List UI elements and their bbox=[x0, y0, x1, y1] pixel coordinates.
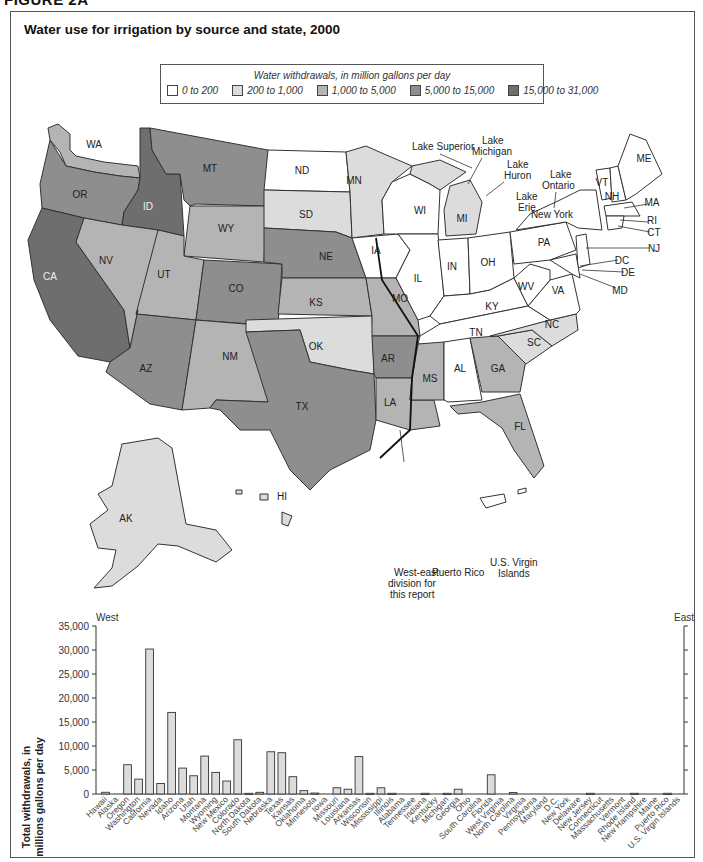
y-tick-label: 5,000 bbox=[64, 765, 89, 776]
bar-chart: Total withdrawals, in millions gallons p… bbox=[12, 612, 694, 856]
bar bbox=[223, 781, 231, 794]
state-AK bbox=[90, 438, 232, 588]
y-axis-label-line1: Total withdrawals, in bbox=[20, 746, 32, 848]
state-label-NJ: NJ bbox=[648, 243, 660, 254]
legend-swatch bbox=[508, 85, 519, 96]
division-label-3: this report bbox=[390, 589, 435, 600]
figure-label: FIGURE 2A bbox=[4, 0, 89, 8]
leader-michigan bbox=[468, 158, 482, 184]
bar bbox=[443, 793, 451, 794]
leader-md bbox=[580, 274, 616, 288]
state-label-VT: VT bbox=[596, 177, 609, 188]
state-CT bbox=[606, 216, 624, 230]
lake-ontario-label-1: Lake bbox=[550, 169, 572, 180]
state-label-KS: KS bbox=[309, 297, 323, 308]
legend-swatch bbox=[317, 85, 328, 96]
bar bbox=[377, 788, 385, 794]
bar bbox=[631, 793, 639, 794]
usvi-label-1: U.S. Virgin bbox=[490, 557, 538, 568]
legend-item: 1,000 to 5,000 bbox=[317, 85, 396, 96]
bar bbox=[201, 756, 209, 794]
leader-huron bbox=[486, 182, 504, 196]
state-label-WA: WA bbox=[86, 139, 102, 150]
state-label-MD: MD bbox=[612, 285, 628, 296]
bar bbox=[421, 793, 429, 794]
bar bbox=[124, 765, 132, 794]
lake-superior-label: Lake Superior bbox=[412, 141, 475, 152]
bar bbox=[146, 649, 154, 794]
state-label-SD: SD bbox=[299, 209, 313, 220]
legend-items: 0 to 200200 to 1,0001,000 to 5,0005,000 … bbox=[167, 85, 598, 96]
bar bbox=[245, 793, 253, 794]
lake-erie-label-2: Erie bbox=[518, 202, 536, 213]
legend-swatch bbox=[232, 85, 243, 96]
bar bbox=[256, 792, 264, 794]
state-label-IA: IA bbox=[371, 245, 381, 256]
state-HI bbox=[282, 512, 292, 526]
state-label-FL: FL bbox=[514, 421, 526, 432]
bar bbox=[179, 768, 187, 794]
state-MI bbox=[444, 180, 482, 236]
state-label-AR: AR bbox=[381, 353, 395, 364]
state-label-OR: OR bbox=[73, 189, 88, 200]
bar bbox=[289, 777, 297, 794]
state-label-OH: OH bbox=[481, 257, 496, 268]
legend-item: 5,000 to 15,000 bbox=[410, 85, 495, 96]
y-tick-label: 15,000 bbox=[58, 717, 89, 728]
state-label-AL: AL bbox=[454, 363, 467, 374]
state-label-WY: WY bbox=[218, 223, 234, 234]
state-label-LA: LA bbox=[384, 397, 397, 408]
state-KS bbox=[278, 278, 372, 316]
bar bbox=[344, 789, 352, 794]
lake-erie-label-1: Lake bbox=[516, 191, 538, 202]
division-label-2: division for bbox=[388, 578, 436, 589]
state-label-TX: TX bbox=[296, 401, 309, 412]
leader-ct bbox=[618, 226, 650, 232]
usvi-label-2: Islands bbox=[498, 568, 530, 579]
state-label-WI: WI bbox=[414, 205, 426, 216]
bar bbox=[586, 793, 594, 794]
bar bbox=[355, 757, 363, 794]
bar bbox=[454, 789, 462, 794]
legend: Water withdrawals, in million gallons pe… bbox=[160, 64, 544, 104]
state-ME bbox=[618, 134, 662, 200]
legend-item: 0 to 200 bbox=[167, 85, 218, 96]
east-label: East bbox=[674, 612, 694, 623]
west-label: West bbox=[96, 612, 119, 623]
state-label-NH: NH bbox=[605, 191, 619, 202]
bar bbox=[267, 752, 275, 794]
state-label-ME: ME bbox=[637, 153, 652, 164]
legend-label: 200 to 1,000 bbox=[247, 85, 303, 96]
state-label-MA: MA bbox=[645, 197, 660, 208]
bar bbox=[278, 753, 286, 794]
state-label-MT: MT bbox=[203, 163, 217, 174]
bar bbox=[102, 792, 110, 794]
state-label-AK: AK bbox=[119, 513, 133, 524]
state-WY bbox=[184, 206, 266, 262]
state-HI-2 bbox=[260, 494, 268, 500]
state-label-OK: OK bbox=[309, 341, 324, 352]
state-label-GA: GA bbox=[491, 363, 506, 374]
state-label-IL: IL bbox=[414, 273, 423, 284]
bar bbox=[212, 772, 220, 794]
legend-title: Water withdrawals, in million gallons pe… bbox=[161, 70, 543, 81]
y-tick-label: 0 bbox=[83, 789, 89, 800]
map-svg: WAORCAIDNVMTWYUTAZCONMNDSDNEKSOKTXMNIAMO… bbox=[20, 110, 690, 610]
state-AR bbox=[372, 336, 418, 378]
leader-division bbox=[400, 430, 404, 462]
us-map: WAORCAIDNVMTWYUTAZCONMNDSDNEKSOKTXMNIAMO… bbox=[20, 110, 690, 610]
state-HI-3 bbox=[236, 490, 242, 494]
y-tick-label: 25,000 bbox=[58, 669, 89, 680]
legend-item: 15,000 to 31,000 bbox=[508, 85, 598, 96]
state-label-NY: New York bbox=[531, 209, 574, 220]
figure-title: Water use for irrigation by source and s… bbox=[24, 22, 340, 37]
state-MA bbox=[604, 202, 640, 216]
state-label-KY: KY bbox=[485, 301, 499, 312]
state-label-UT: UT bbox=[157, 269, 170, 280]
bar bbox=[311, 793, 319, 794]
state-label-WV: WV bbox=[518, 281, 534, 292]
lake-ontario-label-2: Ontario bbox=[542, 180, 575, 191]
bar bbox=[487, 775, 495, 794]
legend-label: 5,000 to 15,000 bbox=[425, 85, 495, 96]
usvi bbox=[518, 488, 526, 494]
